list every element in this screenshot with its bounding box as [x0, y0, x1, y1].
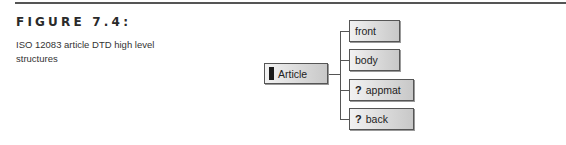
connector-trunk: [340, 31, 341, 119]
connector-front: [340, 31, 349, 32]
node-label: Article: [278, 64, 307, 84]
optional-marker-icon: ?: [355, 84, 362, 96]
node-label: appmat: [366, 84, 401, 96]
node-front: front: [349, 20, 400, 42]
connector-body: [340, 60, 349, 61]
node-back: ?back: [349, 108, 414, 130]
figure-label: FIGURE 7.4:: [16, 15, 131, 29]
node-article: Article: [264, 63, 328, 84]
figure-caption: ISO 12083 article DTD high level structu…: [16, 38, 156, 66]
node-label: front: [355, 21, 376, 41]
node-appmat: ?appmat: [349, 79, 414, 101]
node-label: back: [366, 113, 388, 125]
connector-back: [340, 119, 349, 120]
connector-root: [328, 74, 340, 75]
node-body: body: [349, 49, 400, 71]
optional-marker-icon: ?: [355, 113, 362, 125]
node-label: body: [355, 50, 378, 70]
connector-appmat: [340, 90, 349, 91]
top-rule: [15, 2, 566, 4]
element-marker-icon: [269, 67, 274, 80]
